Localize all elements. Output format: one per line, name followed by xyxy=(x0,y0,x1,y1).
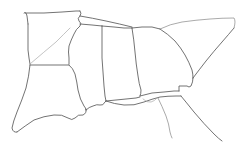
georgia-florida-line xyxy=(140,91,179,96)
georgia-east-coast xyxy=(179,78,193,91)
mississippi-gulf-coast xyxy=(86,101,106,110)
mississippi-alabama-border xyxy=(102,26,106,101)
florida-east-coast xyxy=(181,96,222,141)
state-boundary-layer xyxy=(12,11,235,141)
louisiana-gulf-coast xyxy=(17,109,86,132)
map-canvas xyxy=(0,0,246,151)
tennessee-upper-line xyxy=(80,16,132,27)
mississippi-north-line xyxy=(80,24,102,26)
south-carolina-north-border xyxy=(160,18,235,29)
georgia-tennessee-line xyxy=(132,27,160,29)
arkansas-mississippi-river xyxy=(69,11,82,64)
map-svg xyxy=(0,0,246,151)
arkansas-ouachita-diagonal xyxy=(30,28,70,64)
alabama-georgia-border xyxy=(132,28,141,96)
arkansas-north-edge xyxy=(24,12,28,24)
south-carolina-coast xyxy=(193,28,234,78)
georgia-south-carolina-border xyxy=(160,29,193,78)
louisiana-west-edge xyxy=(12,65,30,132)
alabama-florida-line xyxy=(106,97,140,101)
florida-panhandle-coast xyxy=(106,96,181,105)
florida-peninsula-west xyxy=(158,98,172,138)
louisiana-east-border xyxy=(69,65,86,110)
arkansas-top-line xyxy=(25,11,80,13)
arkansas-west-edge xyxy=(28,24,30,64)
